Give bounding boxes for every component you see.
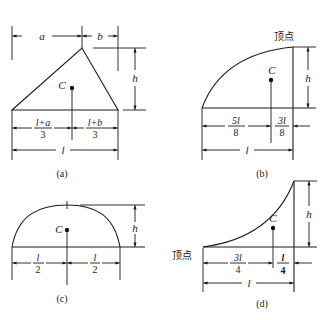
seg-left-num: 3l xyxy=(233,252,242,263)
centroid-label: C xyxy=(269,212,277,224)
parabola-curve xyxy=(202,47,293,108)
dim-a-label: a xyxy=(39,30,45,42)
seg-right-num: l xyxy=(94,252,97,263)
seg-left-num: 5l xyxy=(232,115,240,126)
dim-h-label: h xyxy=(132,72,138,84)
seg-left-den: 2 xyxy=(36,264,41,275)
seg-left-den: 8 xyxy=(234,127,239,138)
figure-a: a b h C l+a 3 l+b 3 l (a) xyxy=(12,26,146,180)
dim-l-label: l xyxy=(247,277,250,289)
dim-h-label: h xyxy=(132,222,138,234)
seg-right-num: l+b xyxy=(88,117,103,128)
caption-c: (c) xyxy=(56,293,67,305)
dim-h-label: h xyxy=(306,208,312,220)
centroid-dot xyxy=(269,78,273,82)
caption-b: (b) xyxy=(256,168,268,180)
caption-a: (a) xyxy=(56,168,67,180)
seg-right-den: 8 xyxy=(280,127,285,138)
caption-d: (d) xyxy=(256,298,268,310)
figure-c: h C l 2 l 2 (c) xyxy=(12,201,145,305)
seg-right-den: 4 xyxy=(281,265,286,276)
dim-l-label: l xyxy=(245,144,248,156)
vertex-label: 顶点 xyxy=(274,31,294,42)
seg-right-num: 3l xyxy=(277,115,286,126)
seg-left-num: l xyxy=(37,252,40,263)
seg-right-den: 3 xyxy=(93,129,98,140)
centroid-label: C xyxy=(268,64,276,76)
vertex-label: 顶点 xyxy=(172,250,192,261)
seg-left-num: l+a xyxy=(36,117,51,128)
seg-right-num: l xyxy=(282,252,285,263)
centroid-dot xyxy=(70,86,74,90)
spandrel-curve xyxy=(203,181,294,247)
centroid-dot xyxy=(271,226,275,230)
dim-h-label: h xyxy=(305,72,311,84)
figure-d: h C 顶点 3l 4 l 4 l (d) xyxy=(172,181,317,310)
arc-curve xyxy=(12,205,120,247)
seg-left-den: 3 xyxy=(41,129,46,140)
centroid-label: C xyxy=(55,223,63,235)
figure-b: 顶点 h C 5l 8 3l 8 l (b) xyxy=(202,31,316,180)
centroid-dot xyxy=(65,228,69,232)
centroid-label: C xyxy=(58,79,66,91)
centroid-diagram: a b h C l+a 3 l+b 3 l (a) xyxy=(0,0,328,320)
seg-right-den: 2 xyxy=(93,264,98,275)
seg-left-den: 4 xyxy=(236,264,241,275)
dim-l-label: l xyxy=(61,144,64,156)
dim-b-label: b xyxy=(97,30,103,42)
